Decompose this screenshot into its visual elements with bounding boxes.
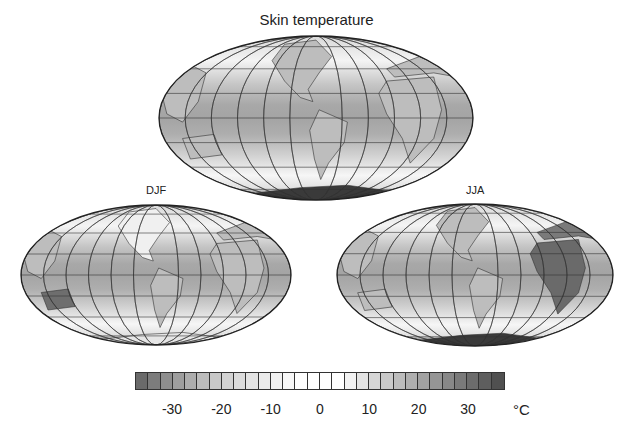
colorbar-cell — [308, 373, 320, 389]
colorbar — [135, 372, 505, 390]
colorbar-cell — [381, 373, 393, 389]
colorbar-cell — [406, 373, 418, 389]
colorbar-cell — [173, 373, 185, 389]
colorbar-cell — [295, 373, 307, 389]
colorbar-cell — [479, 373, 491, 389]
colorbar-cell — [271, 373, 283, 389]
colorbar-cell — [234, 373, 246, 389]
map-jja — [337, 204, 613, 350]
colorbar-cell — [369, 373, 381, 389]
colorbar-cell — [357, 373, 369, 389]
colorbar-cell — [467, 373, 479, 389]
colorbar-cell — [259, 373, 271, 389]
colorbar-cell — [136, 373, 148, 389]
colorbar-tick-label: 20 — [411, 401, 427, 417]
colorbar-tick-label: 30 — [460, 401, 476, 417]
colorbar-cell — [197, 373, 209, 389]
colorbar-cell — [332, 373, 344, 389]
map-panels — [0, 0, 633, 429]
colorbar-tick-label: 0 — [316, 401, 324, 417]
colorbar-cell — [492, 373, 504, 389]
colorbar-tick-label: 10 — [362, 401, 378, 417]
colorbar-cell — [246, 373, 258, 389]
colorbar-cell — [418, 373, 430, 389]
colorbar-cell — [161, 373, 173, 389]
colorbar-tick-label: -20 — [211, 401, 231, 417]
colorbar-unit: °C — [513, 401, 530, 418]
colorbar-cell — [394, 373, 406, 389]
colorbar-cell — [320, 373, 332, 389]
colorbar-cell — [185, 373, 197, 389]
map-djf — [21, 205, 291, 349]
colorbar-tick-label: -30 — [162, 401, 182, 417]
colorbar-cell — [210, 373, 222, 389]
colorbar-cell — [148, 373, 160, 389]
colorbar-cell — [430, 373, 442, 389]
map-annual — [159, 36, 473, 204]
colorbar-tick-label: -10 — [261, 401, 281, 417]
colorbar-cell — [443, 373, 455, 389]
colorbar-cell — [283, 373, 295, 389]
colorbar-cell — [345, 373, 357, 389]
colorbar-cell — [222, 373, 234, 389]
colorbar-cell — [455, 373, 467, 389]
